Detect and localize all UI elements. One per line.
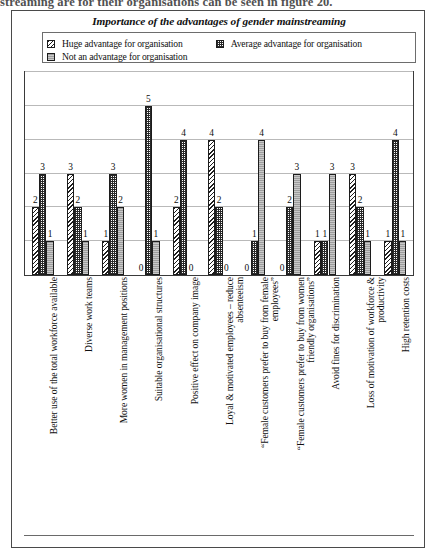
- bar-group: 321: [342, 72, 377, 275]
- bar: [152, 241, 159, 275]
- bar: [349, 174, 356, 276]
- bar-value-label: 1: [154, 230, 159, 239]
- bar-value-label: 2: [287, 196, 292, 205]
- bar-value-label: 3: [330, 163, 335, 172]
- bar: [180, 140, 187, 275]
- bar: [215, 207, 222, 275]
- bar-value-label: 0: [280, 264, 285, 273]
- bar: [384, 241, 391, 275]
- bar-value-label: 3: [68, 163, 73, 172]
- bar-group: 240: [166, 72, 201, 275]
- bar: [321, 241, 328, 275]
- bar: [39, 174, 46, 276]
- legend-label-not-advantage: Not an advantage for organisation: [62, 51, 187, 62]
- bar-group: 113: [307, 72, 342, 275]
- bar: [102, 241, 109, 275]
- bar: [46, 241, 53, 275]
- category-label: Better use of the total workforce availa…: [49, 277, 67, 525]
- bar: [67, 174, 74, 276]
- chart-title: Importance of the advantages of gender m…: [12, 15, 426, 27]
- bar-value-label: 1: [322, 230, 327, 239]
- bar: [145, 106, 152, 275]
- bar-value-label: 2: [358, 196, 363, 205]
- cut-off-body-text: streaming are for their organisations ca…: [0, 0, 436, 9]
- bar-group: 231: [25, 72, 60, 275]
- bar: [109, 174, 116, 276]
- category-label: High retention costs: [401, 277, 419, 525]
- bar-value-label: 4: [259, 129, 264, 138]
- bar-value-label: 1: [400, 230, 405, 239]
- bar-group: 321: [60, 72, 95, 275]
- bar-group: 014: [237, 72, 272, 275]
- bar-group: 132: [96, 72, 131, 275]
- plot-area: 231321132051240420014023113321141: [24, 71, 414, 276]
- category-label: “Female customers prefer to buy from fem…: [260, 277, 278, 525]
- bar-value-label: 1: [252, 230, 257, 239]
- bar-value-label: 1: [83, 230, 88, 239]
- category-label: “Female customers prefer to buy from wom…: [296, 277, 314, 525]
- legend-swatch-average-advantage-icon: [216, 40, 224, 48]
- bar-value-label: 0: [139, 264, 144, 273]
- bar: [314, 241, 321, 275]
- category-label: Suitable organisational structures: [154, 277, 172, 525]
- chart-legend: Huge advantage for organisation Average …: [42, 32, 416, 63]
- category-label: Avoid fines for discrimination: [331, 277, 349, 525]
- bar-value-label: 2: [118, 196, 123, 205]
- bar-value-label: 2: [217, 196, 222, 205]
- bar: [356, 207, 363, 275]
- bar-value-label: 3: [295, 163, 300, 172]
- legend-row-1: Huge advantage for organisation Average …: [47, 35, 362, 49]
- bar-value-label: 2: [174, 196, 179, 205]
- legend-item-not-advantage: Not an advantage for organisation: [47, 48, 187, 64]
- category-label: Diverse work teams: [84, 277, 102, 525]
- bar-value-label: 4: [393, 129, 398, 138]
- category-label: Positive effect on company image: [190, 277, 208, 525]
- bar: [208, 140, 215, 275]
- bar: [286, 207, 293, 275]
- bar-group: 051: [131, 72, 166, 275]
- bar-group: 420: [201, 72, 236, 275]
- bar: [117, 207, 124, 275]
- bar: [392, 140, 399, 275]
- bar-value-label: 4: [181, 129, 186, 138]
- bar-value-label: 2: [76, 196, 81, 205]
- bar-value-label: 3: [40, 163, 45, 172]
- legend-row-2: Not an advantage for organisation: [47, 48, 187, 62]
- bar-group: 023: [272, 72, 307, 275]
- bar: [364, 241, 371, 275]
- bar-group: 141: [378, 72, 413, 275]
- bar: [258, 140, 265, 275]
- figure-bottom-rule: [24, 535, 414, 536]
- bar-value-label: 4: [209, 129, 214, 138]
- legend-item-average-advantage: Average advantage for organisation: [216, 35, 362, 51]
- bar: [329, 174, 336, 276]
- bar: [32, 207, 39, 275]
- bar-value-label: 5: [146, 95, 151, 104]
- bar-value-label: 2: [33, 196, 38, 205]
- figure-container: Importance of the advantages of gender m…: [11, 10, 425, 548]
- bar-value-label: 0: [224, 264, 229, 273]
- legend-swatch-huge-advantage-icon: [47, 40, 55, 48]
- bar: [399, 241, 406, 275]
- bar-value-label: 1: [365, 230, 370, 239]
- bar-value-label: 1: [103, 230, 108, 239]
- category-label: More women in management positions: [119, 277, 137, 525]
- bar: [173, 207, 180, 275]
- bar: [74, 207, 81, 275]
- bar-value-label: 0: [189, 264, 194, 273]
- bar: [251, 241, 258, 275]
- category-labels: Better use of the total workforce availa…: [24, 277, 414, 525]
- bar-value-label: 3: [350, 163, 355, 172]
- bars-layer: 231321132051240420014023113321141: [25, 72, 413, 275]
- bar-value-label: 3: [111, 163, 116, 172]
- bar-value-label: 1: [315, 230, 320, 239]
- category-label: Loyal & motivated employees – reduceabse…: [225, 277, 243, 525]
- bar-value-label: 1: [48, 230, 53, 239]
- bar: [82, 241, 89, 275]
- legend-swatch-not-advantage-icon: [47, 53, 55, 61]
- bar-value-label: 1: [386, 230, 391, 239]
- bar-value-label: 0: [245, 264, 250, 273]
- legend-label-average-advantage: Average advantage for organisation: [231, 38, 362, 49]
- bar: [293, 174, 300, 276]
- category-label: Loss of motivation of workforce &product…: [366, 277, 384, 525]
